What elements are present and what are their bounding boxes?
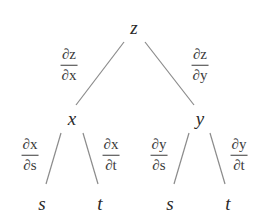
edge-label-dy-ds: ∂y ∂s — [151, 137, 168, 174]
fraction-bar — [151, 155, 168, 156]
node-x: x — [68, 109, 76, 128]
fraction-bar — [61, 65, 78, 66]
edge-x-s — [46, 133, 61, 184]
edge-label-dx-dt: ∂x ∂t — [103, 137, 120, 174]
fraction-bar — [192, 65, 209, 66]
node-s-right: s — [166, 194, 173, 213]
edge-y-s — [174, 133, 189, 184]
node-t-left: t — [97, 194, 102, 213]
edge-z-y — [145, 42, 194, 105]
edge-label-dz-dy: ∂z ∂y — [192, 47, 209, 84]
edge-z-x — [76, 42, 124, 105]
node-y: y — [196, 109, 204, 128]
fraction-bar — [103, 155, 120, 156]
edge-label-dz-dx: ∂z ∂x — [61, 47, 78, 84]
fraction-bar — [231, 155, 248, 156]
edge-y-t — [210, 133, 225, 184]
chain-rule-tree-diagram: z x y s t s t ∂z ∂x ∂z ∂y ∂x ∂s ∂x ∂t ∂y… — [0, 0, 261, 212]
node-t-right: t — [225, 194, 230, 213]
node-z: z — [130, 18, 137, 37]
edge-label-dx-ds: ∂x ∂s — [22, 137, 39, 174]
edge-x-t — [83, 133, 98, 184]
node-s-left: s — [38, 194, 45, 213]
edge-label-dy-dt: ∂y ∂t — [231, 137, 248, 174]
fraction-bar — [22, 155, 39, 156]
